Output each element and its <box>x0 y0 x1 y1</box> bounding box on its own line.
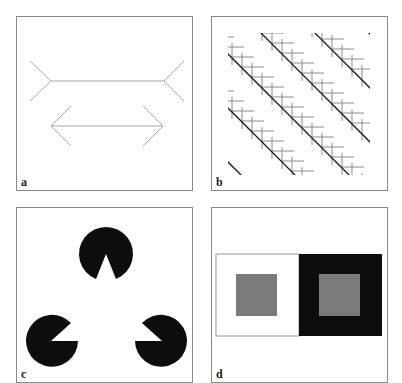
panel-b-zollner: b <box>211 16 388 191</box>
grey-square-left <box>236 274 277 316</box>
panel-c-kanizsa: c <box>16 207 193 383</box>
panel-label: d <box>216 368 223 380</box>
muller-lyer-figure <box>17 17 192 190</box>
kanizsa-figure <box>17 208 192 382</box>
panel-a-muller-lyer: a <box>16 16 193 191</box>
grey-square-right <box>319 274 360 316</box>
contrast-figure <box>212 208 387 382</box>
pacman-top <box>79 227 133 279</box>
zollner-figure <box>212 17 387 190</box>
panel-label: c <box>21 368 26 380</box>
panel-label: b <box>216 176 223 188</box>
pacman-bottom-left <box>26 315 78 367</box>
pacman-bottom-right <box>135 315 187 367</box>
panel-label: a <box>21 176 27 188</box>
panel-d-contrast: d <box>211 207 388 383</box>
